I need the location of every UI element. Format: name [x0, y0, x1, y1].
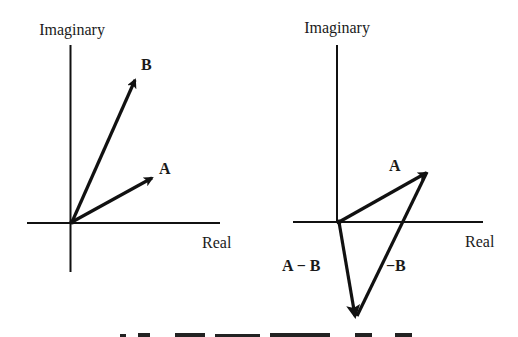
- left-origin-dot: [70, 220, 75, 225]
- left-real-axis-label: Real: [202, 234, 232, 251]
- vector-subtraction-figure: Imaginary Real B A Imaginary Real A −B A…: [0, 0, 518, 337]
- left-vector-a-arrow: [72, 178, 152, 222]
- right-vector-neg-b-label: −B: [386, 257, 406, 274]
- right-panel: Imaginary Real A −B A − B: [282, 19, 495, 316]
- left-vector-b-label: B: [141, 56, 152, 73]
- right-real-axis-label: Real: [465, 233, 495, 250]
- right-vector-a-minus-b-arrow: [339, 222, 355, 316]
- right-origin-dot: [337, 220, 342, 225]
- left-imaginary-axis-label: Imaginary: [39, 21, 105, 39]
- left-panel: Imaginary Real B A: [27, 21, 232, 272]
- right-vector-a-minus-b-label: A − B: [282, 257, 321, 274]
- caption-cropped: [90, 332, 440, 337]
- right-imaginary-axis-label: Imaginary: [304, 19, 370, 37]
- left-vector-a-label: A: [159, 160, 171, 177]
- left-vector-b-arrow: [72, 80, 135, 222]
- right-vector-a-label: A: [389, 157, 401, 174]
